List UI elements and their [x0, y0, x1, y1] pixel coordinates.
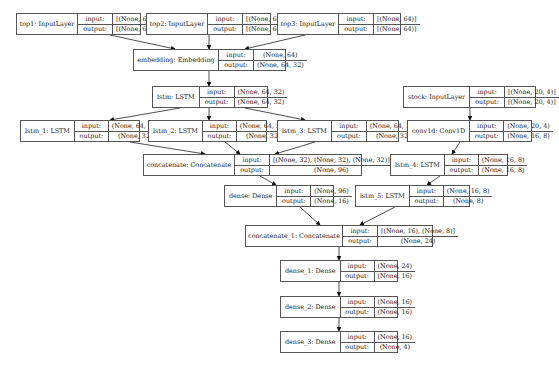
output-shape: (None, 8) [444, 197, 493, 207]
input-label: input: [445, 155, 479, 165]
layer-name: lstm_2: LSTM [149, 121, 203, 141]
layer-name: lstm_1: LSTM [21, 121, 75, 141]
layer-node-dense[interactable]: dense: Denseinput:(None, 96)output:(None… [224, 185, 334, 207]
output-row: output:(None, 16) [277, 196, 352, 207]
layer-node-lstm_3[interactable]: lstm_3: LSTMinput:(None, 64, 32)output:(… [277, 120, 399, 142]
output-label: output: [200, 98, 235, 108]
edge-concatenate-to-dense [260, 176, 276, 185]
layer-node-conv1d[interactable]: conv1d: Conv1Dinput:(None, 20, 4)output:… [407, 120, 532, 142]
layer-name: lstm_4: LSTM [391, 155, 445, 175]
input-label: input: [341, 332, 375, 342]
output-shape: (None, 16, 8) [504, 132, 553, 142]
input-row: input:(None, 64) [219, 50, 307, 60]
output-row: output:[(None, 64)] [339, 24, 420, 35]
layer-node-top3[interactable]: top3: InputLayerinput:[(None, 64)]output… [277, 13, 401, 35]
layer-name: dense_1: Dense [281, 261, 341, 281]
layer-node-top1[interactable]: top1: InputLayerinput:[(None, 64)]output… [16, 13, 141, 35]
edge-lstm_2-to-concatenate [225, 142, 240, 154]
edge-lstm_1-to-concatenate [130, 142, 205, 154]
edge-lstm-to-lstm_3 [245, 108, 305, 120]
output-shape: (None, 64, 32) [235, 98, 288, 108]
output-shape: (None, 24) [378, 237, 458, 247]
layer-node-lstm[interactable]: lstm: LSTMinput:(None, 64, 32)output:(No… [152, 86, 268, 108]
output-row: output:(None, 16) [341, 271, 416, 282]
layer-name: embedding: Embedding [134, 50, 219, 70]
output-row: output:(None, 24) [343, 236, 458, 247]
input-row: input:(None, 16, 8) [410, 186, 493, 196]
output-shape: [(None, 20, 4)] [505, 98, 559, 108]
layer-node-lstm_5[interactable]: lstm_5: LSTMinput:(None, 16, 8)output:(N… [355, 185, 470, 207]
input-label: input: [332, 121, 367, 131]
input-shape: (None, 16) [375, 332, 416, 342]
layer-name: conv1d: Conv1D [408, 121, 470, 141]
edge-lstm_3-to-concatenate [275, 142, 315, 154]
input-shape: (None, 96) [311, 186, 352, 196]
input-label: input: [78, 14, 113, 24]
output-row: output:(None, 16, 8) [470, 131, 553, 142]
input-row: input:(None, 16, 8) [445, 155, 528, 165]
layer-node-dense_2[interactable]: dense_2: Denseinput:(None, 16)output:(No… [280, 296, 398, 318]
input-shape: [(None, 32), (None, 32), (None, 32)] [270, 155, 393, 165]
layer-node-stock[interactable]: stock: InputLayerinput:[(None, 20, 4)]ou… [403, 86, 536, 108]
layer-node-lstm_1[interactable]: lstm_1: LSTMinput:(None, 64, 32)output:(… [20, 120, 140, 142]
layer-name: concatenate_1: Concatenate [246, 226, 343, 246]
input-label: input: [341, 261, 375, 271]
layer-node-dense_1[interactable]: dense_1: Denseinput:(None, 24)output:(No… [280, 260, 398, 282]
layer-name: lstm: LSTM [153, 87, 200, 107]
layer-node-lstm_2[interactable]: lstm_2: LSTMinput:(None, 64, 32)output:(… [148, 120, 267, 142]
input-shape: (None, 64) [254, 50, 307, 60]
input-label: input: [410, 186, 444, 196]
layer-name: concatenate: Concatenate [144, 155, 235, 175]
output-shape: (None, 16, 8) [479, 166, 528, 176]
input-shape: (None, 24) [375, 261, 416, 271]
input-shape: [(None, 16), (None, 8)] [378, 226, 458, 236]
output-row: output:(None, 8) [410, 196, 493, 207]
input-label: input: [208, 14, 243, 24]
layer-name: lstm_3: LSTM [278, 121, 332, 141]
output-shape: (None, 96) [270, 166, 393, 176]
layer-node-lstm_4[interactable]: lstm_4: LSTMinput:(None, 16, 8)output:(N… [390, 154, 508, 176]
output-label: output: [341, 308, 375, 318]
layer-node-dense_3[interactable]: dense_3: Denseinput:(None, 16)output:(No… [280, 331, 398, 353]
layer-name: dense: Dense [225, 186, 277, 206]
layer-name: top2: InputLayer [147, 14, 208, 34]
output-label: output: [339, 25, 374, 35]
output-row: output:(None, 16) [341, 307, 416, 318]
output-shape: (None, 16) [375, 272, 416, 282]
input-shape: (None, 64, 32) [235, 87, 288, 97]
output-shape: [(None, 64)] [374, 25, 420, 35]
output-row: output:[(None, 20, 4)] [470, 97, 559, 108]
output-label: output: [470, 98, 505, 108]
input-row: input:[(None, 20, 4)] [470, 87, 559, 97]
edge-top1-to-embedding [110, 35, 175, 49]
input-label: input: [470, 87, 505, 97]
output-row: output:(None, 4) [341, 342, 416, 353]
layer-name: lstm_5: LSTM [356, 186, 410, 206]
input-row: input:(None, 16) [341, 297, 416, 307]
output-label: output: [235, 166, 270, 176]
output-label: output: [75, 132, 109, 142]
input-label: input: [235, 155, 270, 165]
layer-node-embedding[interactable]: embedding: Embeddinginput:(None, 64)outp… [133, 49, 286, 71]
input-row: input:[(None, 32), (None, 32), (None, 32… [235, 155, 393, 165]
output-label: output: [470, 132, 504, 142]
input-row: input:(None, 64, 32) [200, 87, 288, 97]
input-row: input:[(None, 64)] [339, 14, 420, 24]
output-shape: (None, 4) [375, 343, 416, 353]
input-row: input:[(None, 16), (None, 8)] [343, 226, 458, 236]
input-shape: (None, 20, 4) [504, 121, 553, 131]
input-label: input: [277, 186, 311, 196]
output-label: output: [219, 61, 254, 71]
layer-name: dense_2: Dense [281, 297, 341, 317]
layer-name: stock: InputLayer [404, 87, 470, 107]
layer-node-top2[interactable]: top2: InputLayerinput:[(None, 64)]output… [146, 13, 271, 35]
output-row: output:(None, 16, 8) [445, 165, 528, 176]
layer-node-concatenate_1[interactable]: concatenate_1: Concatenateinput:[(None, … [245, 225, 433, 247]
layer-node-concatenate[interactable]: concatenate: Concatenateinput:[(None, 32… [143, 154, 362, 176]
layer-name: dense_3: Dense [281, 332, 341, 352]
input-label: input: [341, 297, 375, 307]
input-row: input:(None, 20, 4) [470, 121, 553, 131]
output-label: output: [445, 166, 479, 176]
layer-name: top3: InputLayer [278, 14, 339, 34]
input-label: input: [75, 121, 109, 131]
